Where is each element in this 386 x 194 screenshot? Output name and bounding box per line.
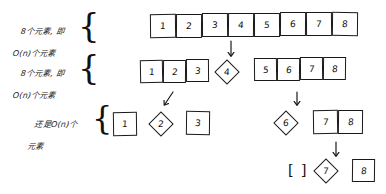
brace-1: { (78, 8, 100, 42)
brace-3: { (92, 102, 112, 134)
cell-row2-right-2: 7 (300, 57, 323, 80)
cell-row1-6: 7 (306, 12, 332, 36)
diamond-row4-pivot-label: 7 (313, 160, 339, 182)
empty-bracket-close: ] (301, 163, 306, 177)
annotation-note-3: 还是O(n)个 元素 (25, 108, 79, 163)
annotation-note-2: 8个元素, 即 O(n)个元素 (11, 57, 66, 112)
cell-row3-right-1: 8 (338, 110, 363, 134)
diamond-row3-right-pivot-label: 6 (273, 112, 299, 134)
cell-row2-left-2: 3 (186, 59, 209, 82)
note-3-line-2: 元素 (26, 141, 76, 152)
cell-row3-left-a: 1 (113, 112, 137, 136)
note-1-line-1: 8个元素, 即 (20, 27, 65, 36)
cell-row3-left-b: 3 (186, 111, 210, 135)
diamond-row3-left-pivot-label: 2 (148, 113, 174, 135)
cell-row1-3: 4 (228, 13, 254, 37)
cell-row1-0: 1 (150, 14, 176, 38)
cell-row1-1: 2 (176, 14, 202, 38)
brace-2: { (78, 50, 100, 84)
cell-row1-4: 5 (254, 13, 280, 37)
cell-row2-right-1: 6 (277, 58, 300, 81)
arrow-row2left-to-row3left (165, 92, 173, 104)
cell-row2-right-0: 5 (254, 58, 277, 81)
diamond-row2-pivot-label: 4 (214, 61, 240, 83)
cell-row2-left-0: 1 (140, 60, 163, 83)
cell-row2-left-1: 2 (163, 60, 186, 83)
cell-row1-5: 6 (280, 12, 306, 36)
cell-row1-7: 8 (332, 12, 358, 36)
empty-bracket-open: [ (288, 163, 293, 177)
note-2-line-1: 8个元素, 即 (20, 69, 65, 78)
cell-row4-box: 8 (352, 159, 375, 182)
note-3-line-1: 还是O(n)个 (34, 120, 78, 129)
cell-row2-right-3: 8 (323, 57, 346, 80)
cell-row1-2: 3 (202, 13, 228, 37)
note-2-line-2: O(n)个元素 (12, 90, 62, 101)
cell-row3-right-0: 7 (313, 110, 338, 134)
